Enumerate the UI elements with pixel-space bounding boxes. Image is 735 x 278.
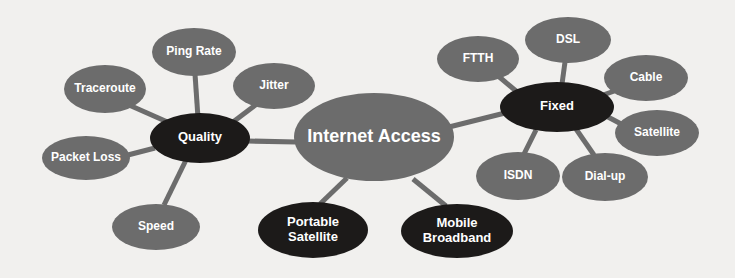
node-label-internet-access: Internet Access (307, 126, 440, 146)
mindmap-canvas: Internet AccessQualityFixedPortableSatel… (0, 0, 735, 278)
connector-quality-to-ping-rate (195, 74, 198, 118)
node-label-satellite: Satellite (634, 125, 680, 139)
node-cable[interactable]: Cable (604, 55, 688, 101)
node-label-dial-up: Dial-up (585, 169, 626, 183)
node-ping-rate[interactable]: Ping Rate (152, 28, 236, 76)
node-label-mobile-broadband: Mobile (436, 215, 477, 230)
node-satellite[interactable]: Satellite (615, 110, 699, 156)
node-fixed[interactable]: Fixed (500, 82, 614, 132)
node-label-ping-rate: Ping Rate (166, 44, 222, 58)
node-label-portable-satellite: Portable (287, 214, 339, 229)
node-label-ftth: FTTH (463, 51, 494, 65)
node-label-isdn: ISDN (504, 168, 533, 182)
node-label-jitter: Jitter (259, 78, 289, 92)
node-jitter[interactable]: Jitter (233, 63, 315, 109)
mindmap-diagram: Internet AccessQualityFixedPortableSatel… (0, 0, 735, 278)
node-packet-loss[interactable]: Packet Loss (42, 136, 130, 180)
node-label-packet-loss: Packet Loss (51, 150, 121, 164)
node-dsl[interactable]: DSL (525, 17, 611, 63)
node-label-speed: Speed (138, 219, 174, 233)
node-ftth[interactable]: FTTH (437, 36, 519, 82)
node-internet-access[interactable]: Internet Access (294, 93, 454, 181)
node-mobile-broadband[interactable]: MobileBroadband (401, 204, 513, 258)
node-label-quality: Quality (178, 129, 223, 144)
node-portable-satellite[interactable]: PortableSatellite (258, 202, 368, 258)
node-dial-up[interactable]: Dial-up (562, 153, 648, 201)
node-label-fixed: Fixed (540, 98, 574, 113)
node-label-traceroute: Traceroute (74, 81, 136, 95)
connector-internet-access-to-quality (248, 141, 296, 142)
connector-fixed-to-dsl (562, 62, 565, 84)
node-label-dsl: DSL (556, 32, 580, 46)
node-label-mobile-broadband: Broadband (423, 230, 492, 245)
node-speed[interactable]: Speed (112, 204, 200, 250)
node-quality[interactable]: Quality (150, 113, 250, 163)
node-label-cable: Cable (630, 70, 663, 84)
node-isdn[interactable]: ISDN (476, 152, 560, 200)
node-label-portable-satellite: Satellite (288, 229, 338, 244)
node-traceroute[interactable]: Traceroute (64, 65, 146, 113)
